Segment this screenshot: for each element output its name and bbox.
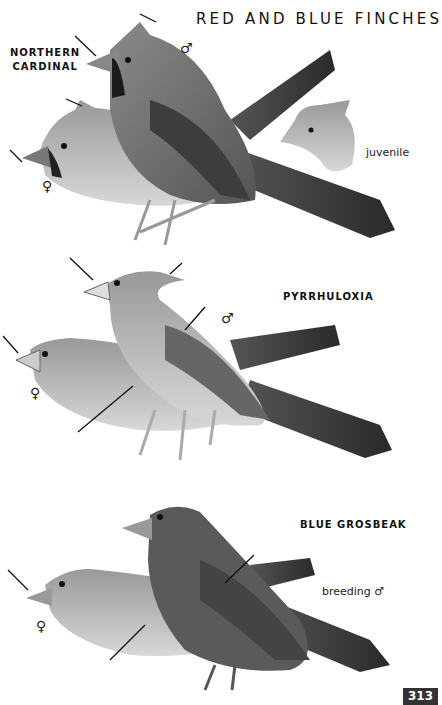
female-symbol: ♀: [42, 178, 52, 194]
grosbeak-male-illustration: [122, 507, 390, 690]
breeding-male-label: breeding ♂: [322, 585, 384, 598]
species-name-northern-cardinal: NORTHERN CARDINAL: [10, 46, 80, 74]
page-number: 313: [403, 688, 438, 705]
cardinal-juvenile-illustration: [280, 100, 355, 171]
species-name-line-1: NORTHERN: [10, 46, 80, 60]
species-name-blue-grosbeak: BLUE GROSBEAK: [300, 518, 407, 532]
male-symbol: ♂: [180, 40, 193, 56]
male-symbol: ♂: [221, 310, 234, 326]
species-name-pyrrhuloxia: PYRRHULOXIA: [283, 290, 374, 304]
species-name-line-2: CARDINAL: [10, 60, 80, 74]
page-title: RED AND BLUE FINCHES: [196, 10, 442, 28]
juvenile-label: juvenile: [366, 146, 409, 159]
female-symbol: ♀: [36, 618, 46, 634]
female-symbol: ♀: [30, 385, 40, 401]
